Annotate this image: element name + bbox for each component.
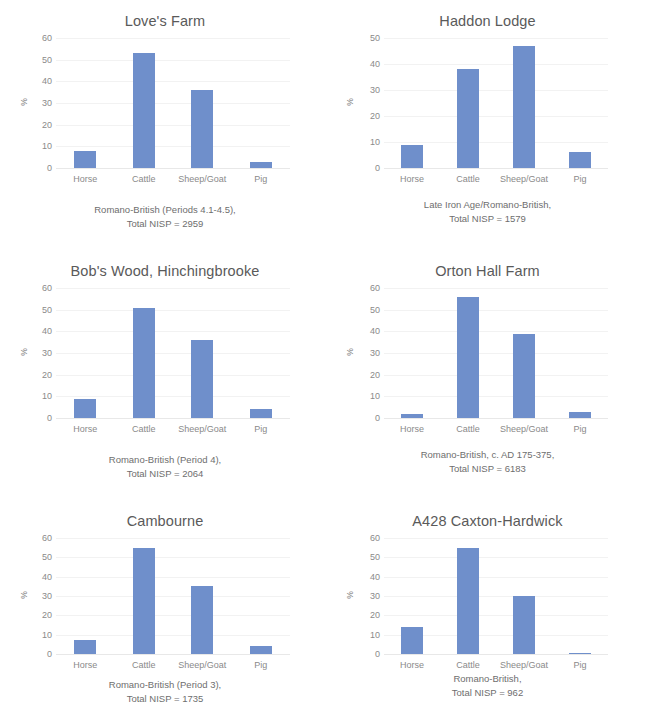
x-tick-label: Pig (552, 424, 608, 434)
x-axis-labels: HorseCattleSheep/GoatPig (56, 424, 290, 434)
x-axis-labels: HorseCattleSheep/GoatPig (56, 174, 290, 184)
bar[interactable] (74, 151, 96, 168)
bar-slot (173, 38, 232, 168)
y-tick-label: 20 (42, 611, 52, 620)
y-tick-label: 10 (370, 392, 380, 401)
x-axis-labels: HorseCattleSheep/GoatPig (384, 660, 608, 670)
y-tick-label: 10 (42, 392, 52, 401)
y-tick-label: 0 (47, 414, 52, 423)
y-axis-ticks: 0102030405060 (26, 288, 52, 418)
bar[interactable] (569, 653, 590, 654)
y-tick-label: 20 (42, 120, 52, 129)
bar-slot (173, 538, 232, 654)
x-axis-labels: HorseCattleSheep/GoatPig (56, 660, 290, 670)
bars-row (56, 38, 290, 168)
bar-slot (384, 288, 440, 418)
bar-slot (440, 538, 496, 654)
y-tick-label: 40 (42, 327, 52, 336)
figure-page: Love's Farm %0102030405060HorseCattleShe… (0, 0, 645, 715)
chart-title: A428 Caxton-Hardwick (330, 500, 645, 530)
y-tick-label: 10 (42, 142, 52, 151)
bar[interactable] (133, 548, 155, 654)
bar[interactable] (457, 548, 478, 654)
bar[interactable] (133, 53, 155, 168)
bar-slot (56, 38, 115, 168)
caption-line-2: Total NISP = 2064 (0, 467, 330, 481)
y-tick-label: 60 (370, 534, 380, 543)
bar[interactable] (513, 46, 534, 168)
bar[interactable] (401, 414, 422, 418)
x-tick-label: Cattle (115, 660, 174, 670)
bar-slot (56, 538, 115, 654)
y-tick-label: 30 (42, 99, 52, 108)
axis-baseline (384, 654, 608, 655)
bar[interactable] (191, 340, 213, 418)
bars-row (384, 538, 608, 654)
x-axis-labels: HorseCattleSheep/GoatPig (384, 424, 608, 434)
caption-line-2: Total NISP = 2959 (0, 217, 330, 231)
chart-title: Bob's Wood, Hinchingbrooke (0, 250, 330, 280)
x-tick-label: Sheep/Goat (496, 174, 552, 184)
bar-slot (115, 288, 174, 418)
x-tick-label: Pig (552, 174, 608, 184)
bar[interactable] (513, 334, 534, 419)
chart-caption: Romano-British (Periods 4.1-4.5), Total … (0, 203, 330, 231)
bar-slot (232, 288, 291, 418)
x-tick-label: Pig (232, 660, 291, 670)
bar[interactable] (250, 162, 272, 169)
x-tick-label: Pig (232, 174, 291, 184)
caption-line-1: Romano-British (Periods 4.1-4.5), (0, 203, 330, 217)
bar[interactable] (401, 145, 422, 168)
y-tick-label: 50 (370, 553, 380, 562)
bar[interactable] (191, 586, 213, 654)
chart-grid: Love's Farm %0102030405060HorseCattleShe… (0, 0, 645, 715)
bar[interactable] (569, 412, 590, 419)
chart-panel-bobs-wood-hinchingbrooke: Bob's Wood, Hinchingbrooke %010203040506… (0, 250, 330, 500)
bar[interactable] (74, 399, 96, 419)
bar[interactable] (191, 90, 213, 168)
bar[interactable] (457, 69, 478, 168)
bar[interactable] (250, 646, 272, 654)
caption-line-1: Romano-British (Period 4), (0, 453, 330, 467)
bar-slot (173, 288, 232, 418)
x-tick-label: Sheep/Goat (173, 660, 232, 670)
y-tick-label: 30 (42, 592, 52, 601)
bar-slot (552, 38, 608, 168)
plot-area (384, 288, 608, 418)
plot-wrap: %0102030405060HorseCattleSheep/GoatPig (348, 538, 616, 676)
y-tick-label: 50 (370, 34, 380, 43)
plot-wrap: %01020304050HorseCattleSheep/GoatPig (348, 38, 616, 190)
bar[interactable] (250, 409, 272, 418)
chart-panel-loves-farm: Love's Farm %0102030405060HorseCattleShe… (0, 0, 330, 250)
bar[interactable] (74, 640, 96, 654)
x-tick-label: Horse (56, 660, 115, 670)
bar[interactable] (133, 308, 155, 419)
bar-slot (232, 538, 291, 654)
bar-slot (552, 288, 608, 418)
bar[interactable] (401, 627, 422, 654)
y-tick-label: 20 (42, 370, 52, 379)
bar[interactable] (513, 596, 534, 654)
axis-baseline (384, 168, 608, 169)
bars-row (56, 288, 290, 418)
x-tick-label: Cattle (440, 660, 496, 670)
y-tick-label: 40 (42, 572, 52, 581)
y-tick-label: 30 (370, 349, 380, 358)
y-tick-label: 60 (42, 534, 52, 543)
caption-line-2: Total NISP = 962 (330, 686, 645, 700)
y-tick-label: 0 (375, 164, 380, 173)
caption-line-1: Late Iron Age/Romano-British, (330, 198, 645, 212)
y-axis-ticks: 0102030405060 (26, 538, 52, 654)
x-tick-label: Sheep/Goat (496, 660, 552, 670)
bar[interactable] (457, 297, 478, 418)
axis-baseline (56, 168, 290, 169)
y-tick-label: 20 (370, 112, 380, 121)
plot-wrap: %0102030405060HorseCattleSheep/GoatPig (22, 538, 298, 676)
chart-title: Orton Hall Farm (330, 250, 645, 280)
bar[interactable] (569, 152, 590, 168)
bar-slot (440, 38, 496, 168)
bars-row (384, 38, 608, 168)
y-tick-label: 60 (370, 284, 380, 293)
chart-caption: Romano-British, Total NISP = 962 (330, 672, 645, 700)
x-tick-label: Sheep/Goat (173, 424, 232, 434)
